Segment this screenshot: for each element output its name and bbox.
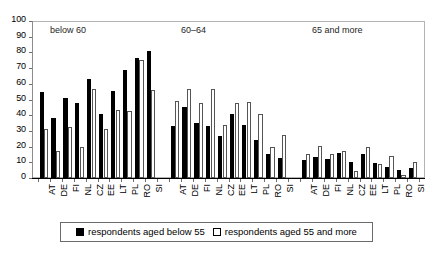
- x-tick-mark: [38, 179, 39, 182]
- bar-60-64-LT-s2: [247, 102, 251, 178]
- bar-65-and-more-EE-s2: [366, 147, 370, 178]
- bar-below-60-LT-s1: [111, 91, 115, 178]
- legend-label-55-and-more: respondents aged 55 and more: [225, 227, 357, 237]
- x-tick-mark: [383, 179, 384, 182]
- x-tick-mark: [217, 179, 218, 182]
- bar-65-and-more-AT-s1: [302, 160, 306, 178]
- bar-65-and-more-LT-s2: [378, 164, 382, 178]
- x-axis-label-EE: EE: [369, 184, 378, 196]
- x-tick-mark: [121, 179, 122, 182]
- x-tick-mark: [74, 179, 75, 182]
- bar-below-60-FI-s1: [63, 98, 67, 178]
- x-axis-label-SI: SI: [417, 184, 426, 193]
- legend-label-below-55: respondents aged below 55: [88, 227, 205, 237]
- x-tick-mark: [145, 179, 146, 182]
- x-axis-label-FI: FI: [72, 184, 81, 192]
- bar-60-64-RO-s1: [266, 154, 270, 178]
- bar-below-60-EE-s1: [99, 114, 103, 178]
- x-axis-label-PL: PL: [393, 184, 402, 195]
- bar-below-60-RO-s2: [139, 60, 143, 178]
- legend-swatch-light-icon: [213, 228, 221, 236]
- bar-below-60-PL-s1: [123, 70, 127, 178]
- bar-65-and-more-FI-s2: [330, 154, 334, 178]
- x-axis-label-RO: RO: [274, 184, 283, 198]
- x-tick-mark: [193, 179, 194, 182]
- bar-65-and-more-LT-s1: [373, 163, 377, 178]
- bar-60-64-PL-s1: [254, 140, 258, 178]
- x-axis-label-CZ: CZ: [96, 184, 105, 196]
- bar-60-64-EE-s1: [230, 114, 234, 178]
- bar-65-and-more-PL-s1: [385, 167, 389, 178]
- x-tick-mark: [395, 179, 396, 182]
- bar-60-64-PL-s2: [258, 114, 262, 178]
- legend: respondents aged below 55 respondents ag…: [60, 222, 373, 242]
- x-tick-mark: [169, 179, 170, 182]
- x-tick-mark: [133, 179, 134, 182]
- x-axis-label-DE: DE: [322, 184, 331, 197]
- x-axis-label-DE: DE: [60, 184, 69, 197]
- x-tick-mark: [312, 179, 313, 182]
- x-tick-mark: [360, 179, 361, 182]
- bar-60-64-DE-s1: [182, 107, 186, 178]
- x-tick-mark: [276, 179, 277, 182]
- x-axis-label-CZ: CZ: [227, 184, 236, 196]
- legend-item-55-and-more: respondents aged 55 and more: [213, 227, 357, 237]
- bar-60-64-NL-s2: [211, 89, 215, 178]
- x-axis-label-FI: FI: [334, 184, 343, 192]
- bar-65-and-more-FI-s1: [325, 159, 329, 178]
- x-tick-mark: [288, 179, 289, 182]
- bar-60-64-NL-s1: [206, 126, 210, 178]
- x-axis-label-AT: AT: [48, 184, 57, 195]
- bar-65-and-more-EE-s1: [361, 154, 365, 178]
- x-tick-mark: [157, 179, 158, 182]
- bar-below-60-PL-s2: [127, 111, 131, 178]
- bar-65-and-more-NL-s2: [342, 151, 346, 178]
- bar-below-60-SI-s2: [151, 90, 155, 178]
- bar-below-60-RO-s1: [135, 58, 139, 178]
- x-tick-mark: [98, 179, 99, 182]
- x-axis-label-LT: LT: [250, 184, 259, 194]
- bar-below-60-NL-s2: [80, 147, 84, 178]
- x-tick-mark: [300, 179, 301, 182]
- x-tick-mark: [407, 179, 408, 182]
- bar-below-60-FI-s2: [68, 127, 72, 178]
- bar-65-and-more-SI-s2: [413, 162, 417, 178]
- x-tick-mark: [86, 179, 87, 182]
- legend-item-below-55: respondents aged below 55: [76, 227, 205, 237]
- x-axis-label-SI: SI: [286, 184, 295, 193]
- bar-60-64-AT-s2: [175, 101, 179, 178]
- x-tick-mark: [371, 179, 372, 182]
- bar-below-60-SI-s1: [147, 51, 151, 178]
- bar-60-64-DE-s2: [187, 89, 191, 178]
- bar-below-60-NL-s1: [75, 103, 79, 178]
- bar-60-64-SI-s2: [282, 135, 286, 178]
- x-tick-mark: [62, 179, 63, 182]
- bar-65-and-more-RO-s1: [397, 170, 401, 178]
- x-axis-label-EE: EE: [238, 184, 247, 196]
- x-tick-mark: [205, 179, 206, 182]
- bar-below-60-DE-s2: [56, 151, 60, 178]
- bar-60-64-CZ-s2: [223, 125, 227, 178]
- x-axis-label-LT: LT: [381, 184, 390, 194]
- legend-swatch-dark-icon: [76, 228, 84, 236]
- bars-layer: [0, 0, 433, 258]
- x-tick-mark: [252, 179, 253, 182]
- bar-65-and-more-DE-s2: [318, 146, 322, 178]
- bar-below-60-AT-s1: [40, 92, 44, 178]
- bar-65-and-more-DE-s1: [313, 157, 317, 178]
- x-axis-label-RO: RO: [143, 184, 152, 198]
- bar-below-60-AT-s2: [44, 129, 48, 178]
- bar-below-60-CZ-s2: [92, 89, 96, 178]
- bar-below-60-DE-s1: [51, 118, 55, 178]
- bar-65-and-more-SI-s1: [409, 168, 413, 178]
- bar-65-and-more-CZ-s1: [349, 162, 353, 178]
- bar-60-64-RO-s2: [270, 147, 274, 178]
- bar-65-and-more-AT-s2: [306, 154, 310, 178]
- x-axis-label-PL: PL: [262, 184, 271, 195]
- x-axis-label-CZ: CZ: [358, 184, 367, 196]
- x-axis-label-DE: DE: [191, 184, 200, 197]
- x-tick-mark: [336, 179, 337, 182]
- x-axis-label-NL: NL: [84, 184, 93, 196]
- bar-60-64-EE-s2: [235, 103, 239, 178]
- x-tick-mark: [264, 179, 265, 182]
